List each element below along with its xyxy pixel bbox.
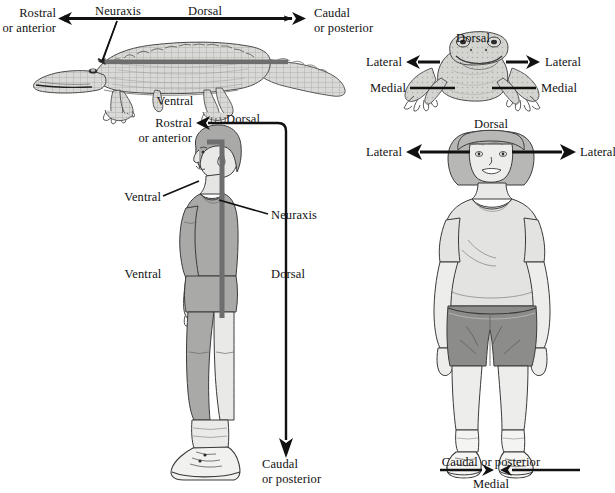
crocodile-panel-graphics bbox=[0, 0, 615, 493]
woman-lateral-right-label: Lateral bbox=[580, 145, 615, 160]
anatomical-directions-figure: Rostral or anterior Neuraxis Dorsal Caud… bbox=[0, 0, 615, 493]
croc-caudal-label: Caudal or posterior bbox=[314, 6, 373, 36]
frog-medial-left-label: Medial bbox=[370, 81, 406, 96]
man-ventral-leader bbox=[163, 181, 199, 196]
man-rostral-label: Rostral or anterior bbox=[138, 116, 192, 146]
frog-lateral-right-label: Lateral bbox=[545, 55, 581, 70]
woman-caudal-label: Caudal or posterior bbox=[442, 455, 540, 470]
crocodile-neuraxis-bar bbox=[104, 60, 288, 65]
croc-ventral-label: Ventral bbox=[157, 94, 194, 109]
croc-neuraxis-label: Neuraxis bbox=[95, 4, 141, 19]
man-illustration bbox=[171, 125, 241, 480]
man-caudal-label: Caudal or posterior bbox=[262, 457, 321, 487]
man-ventral-lower-label: Ventral bbox=[125, 267, 162, 282]
woman-dorsal-label: Dorsal bbox=[474, 117, 508, 132]
frog-lateral-left-label: Lateral bbox=[366, 55, 402, 70]
man-ventral-upper-label: Ventral bbox=[124, 190, 161, 205]
woman-illustration bbox=[434, 130, 550, 478]
woman-medial-label: Medial bbox=[473, 477, 509, 492]
crocodile-illustration bbox=[34, 42, 346, 124]
croc-rostral-label: Rostral or anterior bbox=[2, 6, 56, 36]
frog-dorsal-label: Dorsal bbox=[456, 31, 490, 46]
croc-dorsal-label: Dorsal bbox=[188, 4, 222, 19]
man-caudal-arrowhead bbox=[279, 438, 293, 458]
frog-medial-right-label: Medial bbox=[541, 81, 577, 96]
man-dorsal-top-label: Dorsal bbox=[226, 112, 260, 127]
woman-lateral-left-label: Lateral bbox=[366, 145, 402, 160]
man-neuraxis-label: Neuraxis bbox=[271, 208, 317, 223]
man-rostral-arrowhead bbox=[196, 116, 210, 130]
man-dorsal-lower-label: Dorsal bbox=[271, 267, 305, 282]
